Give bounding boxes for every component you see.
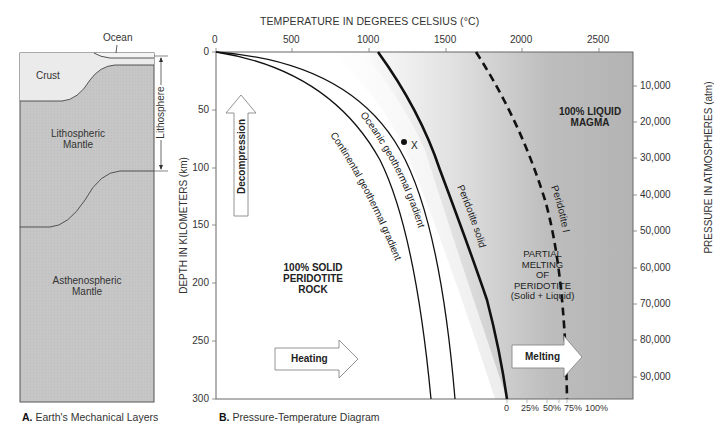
right-tick-80000: 80,000 xyxy=(640,334,671,345)
point-x xyxy=(401,139,407,145)
liquid-label-line1: 100% LIQUID xyxy=(550,106,630,117)
right-tick-30000: 30,000 xyxy=(640,152,671,163)
solid-label-line1: 100% SOLID xyxy=(278,262,348,273)
y-tick-150: 150 xyxy=(186,219,209,230)
point-x-label: X xyxy=(411,140,418,151)
right-tick-70000: 70,000 xyxy=(640,298,671,309)
melting-label: Melting xyxy=(525,351,560,362)
y-tick-250: 250 xyxy=(186,335,209,346)
y-tick-200: 200 xyxy=(186,277,209,288)
solid-region-label: 100% SOLID PERIDOTITE ROCK xyxy=(278,262,348,295)
right-axis-title: PRESSURE IN ATMOSPHERES (atm) xyxy=(703,68,714,268)
decompression-label: Decompression xyxy=(236,116,247,198)
melt-tick-0: 0 xyxy=(504,403,509,413)
x-tick-1500: 1500 xyxy=(434,34,456,45)
left-axis-title: DEPTH IN KILOMETERS (km) xyxy=(178,146,189,306)
solid-label-line2: PERIDOTITE xyxy=(278,273,348,284)
partial-label-line5: (Solid + Liquid) xyxy=(500,291,585,302)
panel-b-caption-letter: B. xyxy=(219,411,230,423)
top-axis-title: TEMPERATURE IN DEGREES CELSIUS (°C) xyxy=(260,15,479,27)
x-tick-2000: 2000 xyxy=(510,34,532,45)
solid-label-line3: ROCK xyxy=(278,284,348,295)
liquid-label-line2: MAGMA xyxy=(550,117,630,128)
right-tick-60000: 60,000 xyxy=(640,262,671,273)
x-tick-1000: 1000 xyxy=(357,34,379,45)
x-tick-500: 500 xyxy=(283,34,300,45)
y-tick-300: 300 xyxy=(186,393,209,404)
heating-label: Heating xyxy=(291,353,328,364)
right-tick-50000: 50,000 xyxy=(640,225,671,236)
panel-b-caption-text: Pressure-Temperature Diagram xyxy=(232,411,379,423)
y-tick-100: 100 xyxy=(186,162,209,173)
y-tick-50: 50 xyxy=(186,104,209,115)
right-tick-10000: 10,000 xyxy=(640,80,671,91)
right-tick-40000: 40,000 xyxy=(640,189,671,200)
melt-tick-100: 100% xyxy=(585,403,608,413)
panel-b-caption: B. Pressure-Temperature Diagram xyxy=(219,411,379,423)
partial-label-line1: PARTIAL xyxy=(500,249,585,260)
y-tick-0: 0 xyxy=(201,46,209,57)
melt-tick-50: 50% xyxy=(543,403,561,413)
x-tick-2500: 2500 xyxy=(587,34,609,45)
x-tick-0: 0 xyxy=(212,34,218,45)
melt-tick-75: 75% xyxy=(564,403,582,413)
right-tick-90000: 90,000 xyxy=(640,371,671,382)
right-tick-20000: 20,000 xyxy=(640,116,671,127)
partial-melting-label: PARTIAL MELTING OF PERIDOTITE (Solid + L… xyxy=(500,249,585,302)
liquid-region-label: 100% LIQUID MAGMA xyxy=(550,106,630,128)
melt-tick-25: 25% xyxy=(521,403,539,413)
partial-label-line3: OF xyxy=(500,270,585,281)
